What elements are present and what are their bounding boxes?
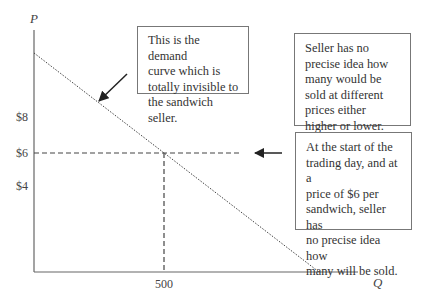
y-tick-4: $4	[16, 180, 28, 192]
y-tick-8: $8	[16, 111, 28, 123]
y-tick-6: $6	[16, 147, 28, 159]
arrow-to-demand-curve	[99, 74, 127, 101]
demand-curve-note: This is the demand curve which is totall…	[137, 26, 249, 94]
start-of-day-note: At the start of the trading day, and at …	[295, 132, 412, 230]
y-axis-label: P	[30, 12, 38, 25]
x-tick-500: 500	[155, 278, 173, 290]
other-prices-note: Seller has no precise idea how many woul…	[294, 33, 411, 126]
